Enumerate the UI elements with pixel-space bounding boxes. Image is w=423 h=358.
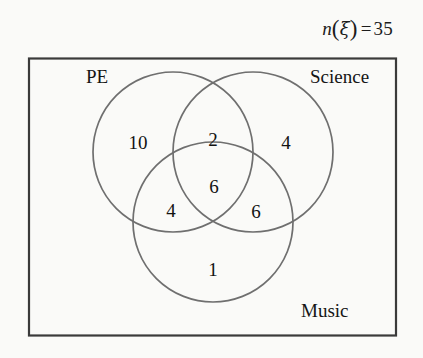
region-count-music-only: 1 (208, 259, 218, 281)
venn-diagram-figure: n(ξ)=35 PE Science Music 10 2 4 4 6 6 1 (0, 0, 423, 358)
region-count-pe-science: 2 (208, 129, 218, 151)
set-label-science: Science (310, 66, 369, 88)
region-count-pe-only: 10 (129, 132, 148, 154)
set-label-music: Music (301, 300, 349, 322)
set-label-pe: PE (86, 66, 108, 88)
region-count-pe-music: 4 (166, 200, 176, 222)
region-count-all-three: 6 (209, 176, 219, 198)
region-count-science-music: 6 (251, 201, 261, 223)
region-count-science-only: 4 (281, 132, 291, 154)
